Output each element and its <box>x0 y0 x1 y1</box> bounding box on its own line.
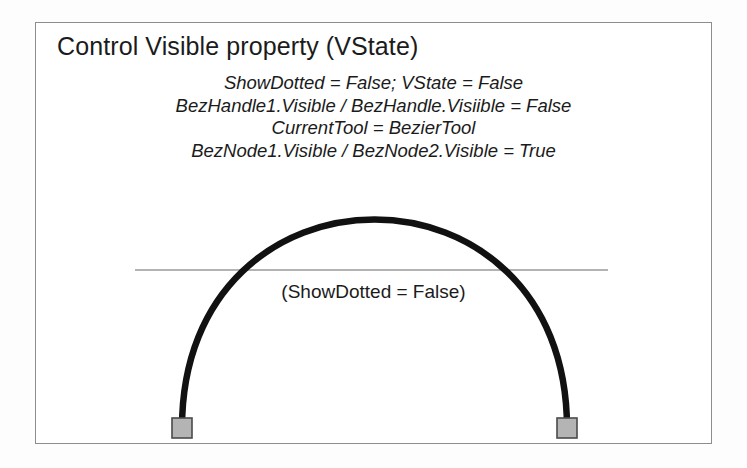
property-line-4: BezNode1.Visible / BezNode2.Visible = Tr… <box>37 140 710 163</box>
page-title: Control Visible property (VState) <box>57 30 418 62</box>
property-line-1: ShowDotted = False; VState = False <box>37 72 710 95</box>
property-annotation-block: ShowDotted = False; VState = False BezHa… <box>37 72 710 162</box>
scanned-page: Control Visible property (VState) ShowDo… <box>0 0 747 468</box>
property-line-2: BezHandle1.Visible / BezHandle.Visiible … <box>37 95 710 118</box>
shape-caption: (ShowDotted = False) <box>37 280 710 303</box>
property-line-3: CurrentTool = BezierTool <box>37 117 710 140</box>
